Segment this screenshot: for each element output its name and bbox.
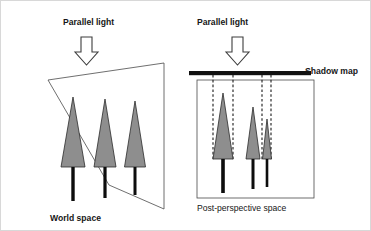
- world-space-tree-1: [61, 97, 85, 201]
- diagram-figure: Parallel light World space Parallel lig: [0, 0, 371, 231]
- right-parallel-light-label: Parallel light: [197, 17, 248, 27]
- shadow-map-label: Shadow map: [305, 66, 358, 76]
- right-down-arrow-icon: [226, 37, 249, 65]
- left-parallel-light-label: Parallel light: [63, 17, 114, 27]
- post-perspective-space-panel: Parallel light Shadow map: [189, 17, 358, 213]
- shadow-map-bar: [189, 71, 311, 75]
- world-space-tree-2: [94, 99, 116, 198]
- post-perspective-tree-3: [263, 119, 272, 187]
- post-perspective-tree-1: [213, 93, 233, 193]
- left-down-arrow-icon: [75, 37, 98, 65]
- diagram-canvas: Parallel light World space Parallel lig: [1, 1, 371, 231]
- world-space-panel: Parallel light World space: [48, 17, 164, 223]
- post-perspective-space-caption: Post-perspective space: [197, 203, 287, 213]
- world-space-caption: World space: [50, 213, 101, 223]
- world-space-tree-3: [125, 101, 146, 195]
- post-perspective-tree-2: [246, 107, 260, 189]
